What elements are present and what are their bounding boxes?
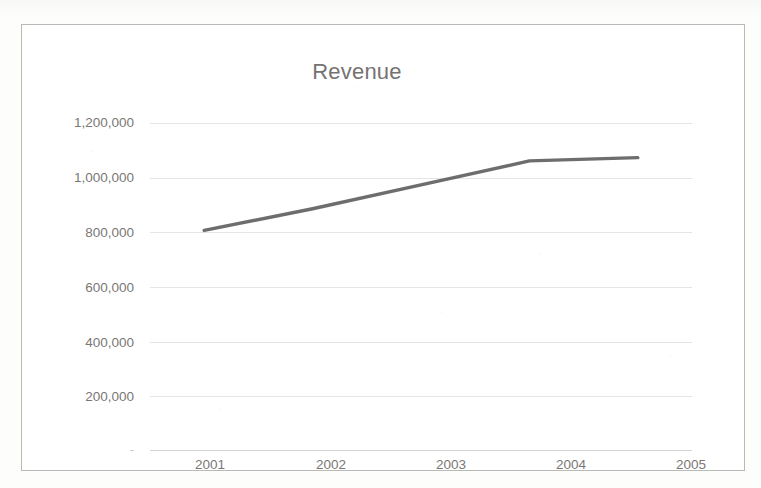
y-axis-tick-label-200000: 200,000 — [22, 390, 134, 404]
page-edge-shadow — [0, 0, 761, 18]
y-axis-labels: 1,200,000 1,000,000 800,000 600,000 400,… — [22, 25, 142, 470]
x-axis-labels: 2001 2002 2003 2004 2005 — [150, 457, 692, 483]
y-axis-tick-label-1200000: 1,200,000 — [22, 116, 134, 130]
y-axis-tick-label-800000: 800,000 — [22, 226, 134, 240]
series-revenue-line — [150, 99, 692, 451]
y-axis-tick-label-400000: 400,000 — [22, 336, 134, 350]
chart-frame: Revenue 1,200,000 1,000,000 800,000 600,… — [21, 24, 745, 471]
y-axis-tick-label-600000: 600,000 — [22, 281, 134, 295]
x-axis-tick-label-2002: 2002 — [316, 457, 346, 472]
x-axis-tick-label-2001: 2001 — [195, 457, 225, 472]
series-revenue-polyline — [204, 158, 638, 231]
scanned-page-background: Revenue 1,200,000 1,000,000 800,000 600,… — [0, 0, 761, 488]
x-axis-tick-label-2005: 2005 — [676, 457, 706, 472]
x-axis-tick-label-2004: 2004 — [556, 457, 586, 472]
y-axis-tick-label-zero: - — [22, 443, 134, 456]
plot-area — [150, 99, 692, 451]
x-axis-tick-label-2003: 2003 — [436, 457, 466, 472]
y-axis-tick-label-1000000: 1,000,000 — [22, 171, 134, 185]
